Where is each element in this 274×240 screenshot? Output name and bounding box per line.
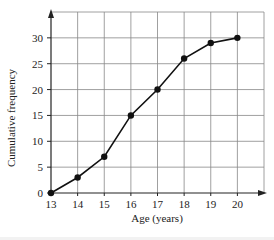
y-tick-label: 20 <box>32 84 44 96</box>
x-tick-label: 14 <box>72 198 84 210</box>
data-point <box>74 174 80 180</box>
y-tick-label: 10 <box>32 135 44 147</box>
x-tick-label: 19 <box>205 198 217 210</box>
data-point <box>181 55 187 61</box>
x-tick-label: 15 <box>99 198 111 210</box>
data-point <box>101 154 107 160</box>
y-tick-label: 5 <box>38 161 44 173</box>
y-tick-labels: 051015202530 <box>32 32 51 199</box>
data-point <box>48 190 54 196</box>
x-tick-label: 16 <box>125 198 137 210</box>
x-tick-label: 18 <box>179 198 191 210</box>
x-tick-label: 17 <box>152 198 164 210</box>
cumulative-frequency-chart: 051015202530 1314151617181920 Age (years… <box>0 0 274 240</box>
y-tick-label: 15 <box>32 109 44 121</box>
data-point <box>154 86 160 92</box>
data-point <box>128 112 134 118</box>
x-tick-label: 13 <box>46 198 58 210</box>
x-axis-arrow-icon <box>258 190 267 196</box>
y-axis-arrow-icon <box>48 9 54 18</box>
y-tick-label: 0 <box>38 187 44 199</box>
y-tick-label: 30 <box>32 32 44 44</box>
x-tick-labels: 1314151617181920 <box>46 193 244 210</box>
data-point <box>234 35 240 41</box>
y-axis-label: Cumulative frequency <box>5 68 17 167</box>
x-tick-label: 20 <box>232 198 244 210</box>
y-tick-label: 25 <box>32 58 44 70</box>
data-point <box>208 40 214 46</box>
x-axis-label: Age (years) <box>131 212 183 225</box>
